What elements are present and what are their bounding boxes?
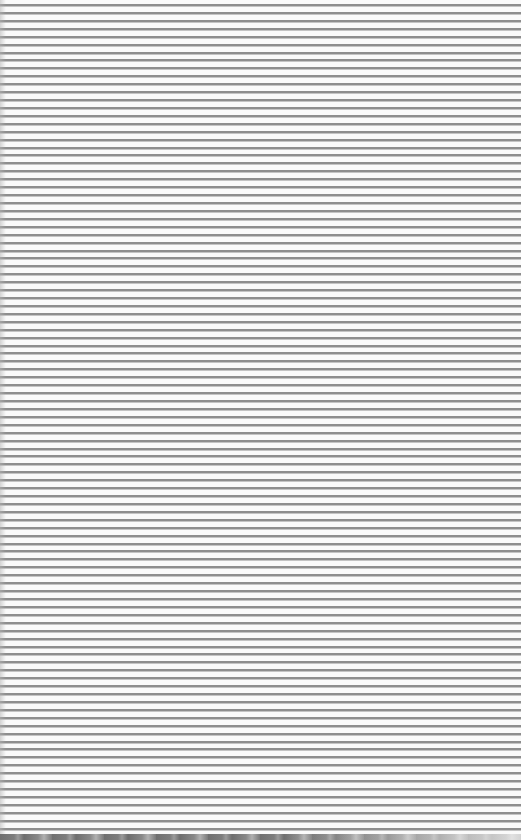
- ruled-lines-area: [0, 0, 521, 834]
- bottom-edge-band: [0, 834, 521, 840]
- left-edge-shadow: [0, 0, 6, 834]
